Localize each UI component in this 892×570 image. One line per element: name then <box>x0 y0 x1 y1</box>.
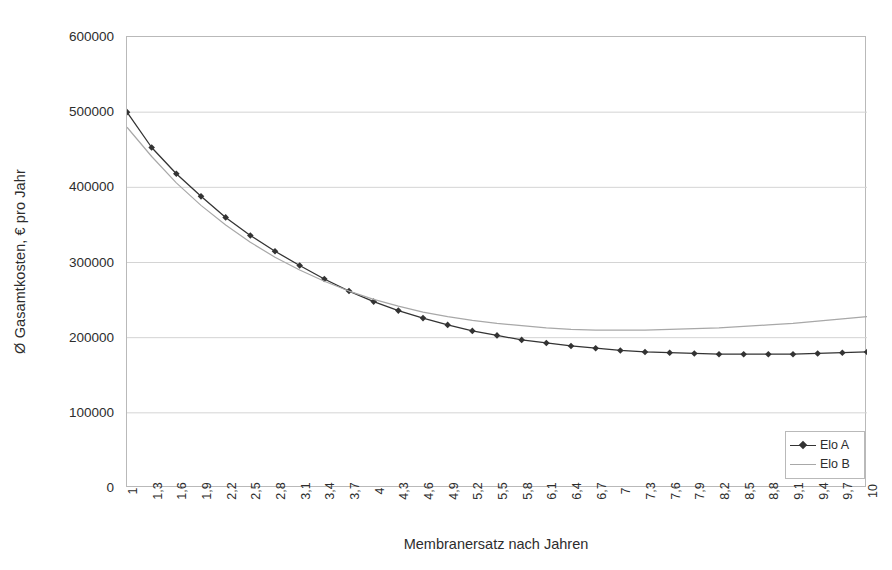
x-axis-tick-label: 2,5 <box>249 482 263 499</box>
y-axis-tick-labels: 6000005000004000003000002000001000000 <box>28 36 120 487</box>
chart-container: Ø Gasamtkosten, € pro Jahr 6000005000004… <box>0 0 892 570</box>
series-marker <box>814 350 821 357</box>
x-axis-tick-label: 3,4 <box>323 482 337 499</box>
x-axis-tick-labels: 11,31,61,92,22,52,83,13,43,744,34,64,95,… <box>126 489 866 535</box>
series-marker <box>716 351 723 358</box>
x-axis-tick-label: 1 <box>126 488 140 495</box>
legend-item-label: Elo B <box>820 458 850 471</box>
y-axis-tick-label: 100000 <box>69 404 114 419</box>
x-axis-tick-label: 4,6 <box>422 482 436 499</box>
series-marker <box>642 349 649 356</box>
series-marker <box>765 351 772 358</box>
plot-canvas <box>127 37 867 488</box>
x-axis-tick-label: 7,6 <box>669 482 683 499</box>
x-axis-tick-label: 6,1 <box>545 482 559 499</box>
y-axis-tick-label: 200000 <box>69 329 114 344</box>
y-axis-tick-label: 0 <box>106 480 114 495</box>
x-axis-tick-label: 5,5 <box>496 482 510 499</box>
series-marker <box>839 349 846 356</box>
x-axis-tick-label: 8,5 <box>743 482 757 499</box>
series-marker <box>296 262 303 269</box>
x-axis-tick-label: 6,4 <box>570 482 584 499</box>
series-marker <box>666 349 673 356</box>
x-axis-tick-label: 1,3 <box>151 482 165 499</box>
x-axis-tick-label: 2,8 <box>274 482 288 499</box>
y-axis-tick-label: 600000 <box>69 29 114 44</box>
series-marker <box>864 349 867 356</box>
legend-swatch-icon <box>790 440 816 452</box>
series-marker <box>691 350 698 357</box>
series-line <box>127 127 867 330</box>
x-axis-tick-label: 7 <box>619 488 633 495</box>
x-axis-tick-label: 4,9 <box>447 482 461 499</box>
x-axis-tick-label: 7,3 <box>644 482 658 499</box>
series-marker <box>469 328 476 335</box>
x-axis-tick-label: 8,8 <box>767 482 781 499</box>
x-axis-tick-label: 5,2 <box>471 482 485 499</box>
legend-item[interactable]: Elo A <box>790 436 859 455</box>
x-axis-tick-label: 1,6 <box>175 482 189 499</box>
y-axis-tick-label: 500000 <box>69 104 114 119</box>
y-axis-tick-label: 300000 <box>69 254 114 269</box>
series-marker <box>592 345 599 352</box>
x-axis-tick-label: 9,1 <box>792 482 806 499</box>
series-marker <box>568 343 575 350</box>
series-marker <box>395 307 402 314</box>
legend-swatch-icon <box>790 459 816 471</box>
series-marker <box>420 315 427 322</box>
plot-area <box>126 36 866 487</box>
x-axis-tick-label: 3,1 <box>299 482 313 499</box>
series-marker <box>444 322 451 329</box>
series-marker <box>740 351 747 358</box>
x-axis-tick-label: 7,9 <box>693 482 707 499</box>
x-axis-tick-label: 4,3 <box>397 482 411 499</box>
x-axis-title: Membranersatz nach Jahren <box>126 536 866 552</box>
x-axis-tick-label: 5,8 <box>521 482 535 499</box>
x-axis-tick-label: 9,7 <box>841 482 855 499</box>
series-marker <box>790 351 797 358</box>
series-marker <box>543 340 550 347</box>
legend-item[interactable]: Elo B <box>790 455 859 474</box>
x-axis-tick-label: 9,4 <box>817 482 831 499</box>
x-axis-tick-label: 4 <box>373 488 387 495</box>
chart-legend: Elo AElo B <box>785 431 865 479</box>
x-axis-tick-label: 8,2 <box>718 482 732 499</box>
x-axis-tick-label: 6,7 <box>595 482 609 499</box>
series-marker <box>617 347 624 354</box>
x-axis-tick-label: 10 <box>866 484 880 498</box>
legend-item-label: Elo A <box>820 439 849 452</box>
y-axis-tick-label: 400000 <box>69 179 114 194</box>
x-axis-tick-label: 3,7 <box>348 482 362 499</box>
series-marker <box>272 248 279 255</box>
x-axis-tick-label: 1,9 <box>200 482 214 499</box>
x-axis-tick-label: 2,2 <box>225 482 239 499</box>
